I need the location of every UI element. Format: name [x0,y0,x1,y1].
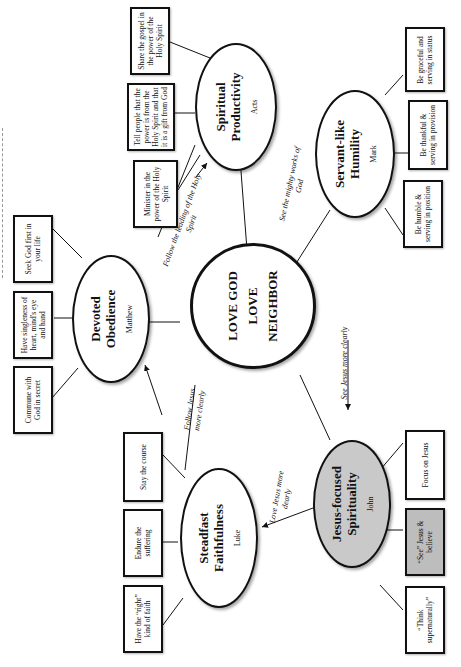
box-john-think: “Think supernaturally” [405,586,445,654]
box-matthew-commune: Commune with God in secret [13,366,53,434]
node-title: Spiritual [213,72,228,141]
box-text: Share the gospel in the power of the Hol… [137,10,164,72]
node-book: Acts [250,72,259,141]
box-matthew-seek-god: Seek God first in your life [13,215,53,283]
box-text: Be humble & serving in position [414,184,432,244]
box-text: Commune with God in secret [24,370,42,430]
node-title: Servant-like [332,120,347,188]
node-spiritual-productivity: Spiritual Productivity Acts [195,43,277,171]
node-servant-like-humility: Servant-like Humility Mark [315,90,395,218]
box-matthew-singleness: Have singleness of heart, mind's eye and… [13,291,53,359]
box-luke-stay-course: Stay the course [123,432,163,502]
box-text: Have the “right” kind of faith [134,589,152,649]
node-title: Jesus-focused [329,466,344,542]
node-title: Productivity [228,72,243,141]
box-john-see-jesus: “See” Jesus & believe [405,508,445,576]
center-line-1: LOVE GOD [223,270,243,342]
box-text: Be thankful & serving in provision [419,104,437,166]
node-book: Matthew [125,290,134,349]
box-luke-endure: Endure the suffering [123,509,163,577]
node-steadfast-faithfulness: Steadfast Faithfulness Luke [180,468,258,608]
box-luke-right-faith: Have the “right” kind of faith [123,585,163,653]
box-mark-graceful: Be graceful and serving in status [405,27,445,92]
box-mark-humble: Be humble & serving in position [403,180,443,248]
node-title: Steadfast [196,504,211,572]
edge-label-text: See Jesus more clearly [340,327,349,400]
node-book: Luke [233,504,242,572]
box-text: Be graceful and serving in status [416,30,434,90]
box-text: Seek God first in your life [24,219,42,279]
node-book: Mark [369,120,378,188]
box-text: Minister in the power of the Holy Spirit [142,163,169,225]
center-line-2: LOVE [243,270,263,342]
node-title: Obedience [103,290,118,349]
box-mark-thankful: Be thankful & serving in provision [408,100,448,170]
box-acts-share-gospel: Share the gospel in the power of the Hol… [130,7,170,75]
center-line-3: NEIGHBOR [263,270,283,342]
box-acts-minister: Minister in the power of the Holy Spirit [133,160,178,228]
node-devoted-obedience: Devoted Obedience Matthew [72,255,150,383]
node-title: Spirituality [344,466,359,542]
node-book: John [366,466,375,542]
edge-label-see-jesus-clearly: See Jesus more clearly [340,313,350,413]
discipleship-diagram: LOVE GOD LOVE NEIGHBOR Spiritual Product… [0,0,461,667]
box-text: Endure the suffering [134,513,152,573]
box-john-focus: Focus on Jesus [405,430,445,500]
node-title: Devoted [88,290,103,349]
box-text: Tell people that the power is from the H… [133,85,169,149]
box-text: Stay the course [139,436,148,498]
node-title: Faithfulness [211,504,226,572]
box-text: “Think supernaturally” [416,590,434,650]
box-text: Have singleness of heart, mind's eye and… [20,294,47,356]
box-acts-tell-people: Tell people that the power is from the H… [127,83,175,151]
box-text: Focus on Jesus [421,434,430,496]
box-text: “See” Jesus & believe [416,512,434,572]
center-node-love-god-love-neighbor: LOVE GOD LOVE NEIGHBOR [190,243,316,369]
node-jesus-focused-spirituality: Jesus-focused Spirituality John [313,440,391,568]
node-title: Humility [347,120,362,188]
